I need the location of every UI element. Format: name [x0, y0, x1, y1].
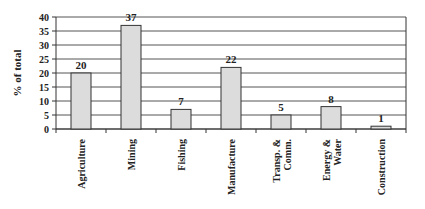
data-label: 20 [76, 59, 88, 71]
bar-chart: 0510152025303540 2037722581 AgricultureM… [0, 0, 425, 209]
svg-text:Fishing: Fishing [176, 139, 187, 171]
y-axis-ticks: 0510152025303540 [39, 12, 49, 135]
bar-manufacture [221, 67, 241, 129]
y-axis-title: % of total [11, 49, 23, 96]
bar-agriculture [71, 73, 91, 129]
y-tick-label: 10 [39, 96, 49, 107]
svg-text:Agriculture: Agriculture [76, 138, 87, 188]
svg-text:Water: Water [332, 138, 343, 165]
x-tick-label: Agriculture [76, 138, 87, 188]
y-tick-label: 35 [39, 26, 49, 37]
x-tick-label: Mining [126, 139, 137, 170]
y-tick-label: 40 [39, 12, 49, 23]
bar-transp-comm [271, 115, 291, 129]
x-tick-label: Transp. &Comm. [271, 139, 293, 183]
y-tick-label: 15 [39, 82, 49, 93]
bar-fishing [171, 109, 191, 129]
data-label: 7 [178, 95, 184, 107]
data-label: 1 [378, 112, 384, 124]
bar-energy-water [321, 107, 341, 129]
svg-text:Transp. &: Transp. & [271, 139, 282, 183]
y-tick-label: 5 [44, 110, 49, 121]
data-label: 5 [278, 101, 284, 113]
y-tick-label: 25 [39, 54, 49, 65]
x-tick-label: Energy &Water [321, 138, 343, 181]
svg-text:Construction: Construction [376, 139, 387, 196]
x-tick-label: Construction [376, 139, 387, 196]
data-label: 8 [328, 93, 334, 105]
svg-text:Comm.: Comm. [282, 139, 293, 171]
bar-construction [371, 126, 391, 129]
bar-mining [121, 25, 141, 129]
y-tick-label: 30 [39, 40, 49, 51]
x-tick-label: Manufacture [226, 138, 237, 194]
svg-text:Manufacture: Manufacture [226, 138, 237, 194]
data-label: 37 [126, 11, 138, 23]
svg-text:Mining: Mining [126, 139, 137, 170]
y-tick-label: 0 [44, 124, 49, 135]
bars [71, 25, 391, 129]
x-axis-labels: AgricultureMiningFishingManufactureTrans… [76, 138, 387, 195]
data-label: 22 [226, 53, 238, 65]
y-tick-label: 20 [39, 68, 49, 79]
svg-text:Energy &: Energy & [321, 139, 332, 181]
x-tick-label: Fishing [176, 139, 187, 171]
